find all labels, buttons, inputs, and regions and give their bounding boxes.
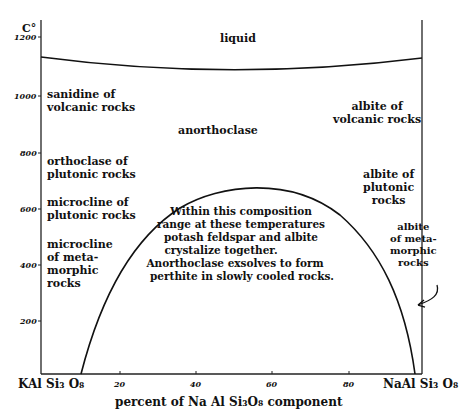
region-anorthoclase: anorthoclase xyxy=(178,124,258,137)
region-albite-metamorphic: albite of meta- morphic rocks xyxy=(390,221,437,269)
x-tick-80: 80 xyxy=(343,379,354,389)
x-tick-60: 60 xyxy=(266,379,277,389)
x-tick-40: 40 xyxy=(190,379,201,389)
region-orthoclase: orthoclase of plutonic rocks xyxy=(47,155,136,181)
x-tick-20: 20 xyxy=(114,379,125,389)
region-albite-plutonic: albite of plutonic rocks xyxy=(363,168,414,207)
liquidus-curve xyxy=(41,57,422,70)
solvus-note: Within this composition range at these t… xyxy=(150,205,332,283)
y-tick-800: 800 xyxy=(20,148,37,158)
region-microcline-plutonic: microcline of plutonic rocks xyxy=(47,196,136,222)
region-albite-volcanic: albite of volcanic rocks xyxy=(333,100,421,126)
y-tick-400: 400 xyxy=(20,260,37,270)
region-microcline-metamorphic: microcline of meta- morphic rocks xyxy=(47,238,113,290)
y-tick-600: 600 xyxy=(20,204,37,214)
x-axis-right-end: NaAl Si₃ O₈ xyxy=(383,378,458,391)
x-axis-label: percent of Na Al Si₃O₈ component xyxy=(115,396,342,409)
y-tick-200: 200 xyxy=(20,316,37,326)
y-tick-1000: 1000 xyxy=(14,91,36,101)
y-tick-1200: 1200 xyxy=(14,32,36,42)
x-axis-left-end: KAl Si₃ O₈ xyxy=(18,378,84,391)
region-liquid: liquid xyxy=(220,32,256,45)
region-sanidine: sanidine of volcanic rocks xyxy=(47,88,135,114)
